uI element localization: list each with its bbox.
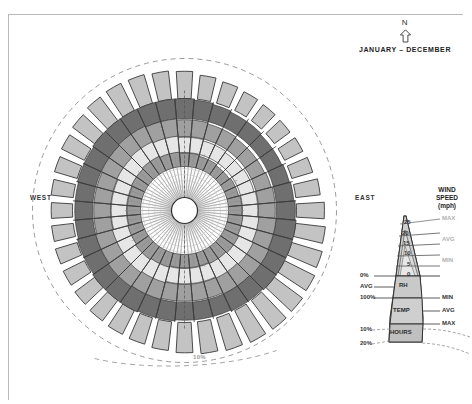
wind-spike: [195, 218, 222, 237]
legend-wind-tick-25: 25: [404, 219, 411, 225]
rose-sector: [258, 203, 275, 219]
rose-sector: [55, 243, 81, 264]
rose-sector: [111, 204, 127, 217]
wind-rose-chart: [22, 48, 347, 373]
north-label: N: [345, 18, 465, 28]
wind-spike: [185, 223, 188, 259]
rose-sector: [287, 157, 312, 178]
legend-wind-tick-0: 0: [407, 271, 410, 277]
rose-sector: [61, 135, 91, 161]
rose-sector: [287, 243, 322, 268]
rose-sector: [75, 201, 93, 220]
rose-sector: [52, 223, 76, 241]
center-hub: [172, 198, 198, 224]
legend-band-rh: RH: [399, 282, 408, 288]
legend-diagram: [360, 186, 472, 361]
rose-sector: [278, 138, 303, 161]
rose-sector: [296, 202, 324, 219]
rose-sector: [251, 105, 275, 129]
rose-sector: [129, 313, 152, 344]
legend-temp-avg: AVG: [442, 307, 455, 313]
legend-temp-min: MIN: [442, 294, 453, 300]
legend-hours-tick1: 10%: [360, 326, 372, 332]
rose-sector: [51, 203, 73, 219]
rose-sector: [293, 179, 320, 198]
wind-spike: [147, 185, 174, 204]
rose-sector: [235, 92, 258, 117]
rose-sector: [152, 319, 172, 350]
wind-spike: [180, 162, 183, 198]
rose-sector: [197, 319, 218, 353]
period-label: JANUARY – DECEMBER: [345, 46, 465, 53]
legend-wind-tick-15: 15: [403, 240, 410, 246]
title-block: N JANUARY – DECEMBER: [345, 18, 465, 53]
rose-sector: [217, 82, 238, 108]
rose-sector: [242, 204, 258, 217]
legend-temp-max: MAX: [442, 320, 455, 326]
rose-sector: [276, 201, 295, 220]
rose-sector: [63, 261, 91, 286]
legend-hours-tick2: 20%: [360, 340, 372, 346]
rose-sector: [54, 157, 81, 179]
rose-sector: [152, 71, 172, 102]
legend-rh-mid: AVG: [360, 283, 373, 289]
legend-panel: WIND SPEED (mph): [360, 186, 472, 361]
legend-wind-tick-10: 10: [404, 250, 411, 256]
legend-wind-max: MAX: [442, 215, 455, 221]
legend-rh-top: 0%: [360, 272, 369, 278]
rose-sector: [197, 75, 216, 101]
legend-rh-bottom: 100%: [360, 294, 375, 300]
legend-wind-avg: AVG: [442, 236, 455, 242]
rose-sector: [128, 75, 152, 108]
wind-spike: [154, 219, 175, 240]
north-arrow-icon: [399, 29, 412, 43]
legend-wind-min: MIN: [442, 257, 453, 263]
wind-spike: [193, 180, 214, 201]
rose-sector: [176, 71, 192, 98]
rose-sector: [293, 223, 325, 243]
legend-band-temp: TEMP: [393, 307, 410, 313]
wind-spike: [184, 223, 185, 266]
legend-band-hours: HOURS: [390, 329, 412, 335]
rose-sector: [94, 203, 111, 219]
rose-sector: [178, 137, 191, 153]
legend-wind-tick-20: 20: [402, 230, 409, 236]
rose-sector: [266, 120, 290, 144]
legend-wind-tick-5: 5: [407, 261, 410, 267]
scale-note: 10%: [193, 354, 206, 360]
rose-sector: [51, 179, 75, 197]
